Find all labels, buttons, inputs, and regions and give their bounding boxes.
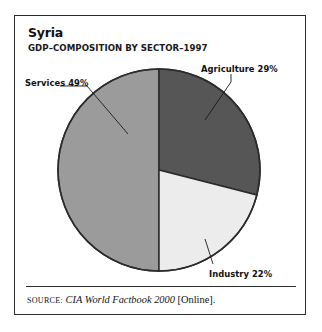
source-divider [26,286,296,287]
source-suffix: [Online]. [178,294,216,305]
source-note: SOURCE: CIA World Factbook 2000 [Online]… [27,294,215,305]
source-label: SOURCE: [27,296,63,305]
pie-label-industry: Industry 22% [209,269,272,279]
source-title: CIA World Factbook 2000 [66,294,175,305]
figure-frame: Syria GDP–COMPOSITION BY SECTOR–1997 [14,15,306,315]
figure-panel: Syria GDP–COMPOSITION BY SECTOR–1997 [0,0,322,332]
pie-label-agriculture: Agriculture 29% [201,64,278,74]
pie-slice-services[interactable] [58,69,159,271]
pie-chart: Services 49% Agriculture 29% Industry 22… [15,16,307,316]
pie-label-services: Services 49% [25,78,88,88]
